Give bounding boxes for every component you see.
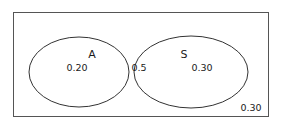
set-a-only-value: 0.20 xyxy=(66,62,87,73)
set-s-label: S xyxy=(181,48,188,61)
intersection-value: 0.5 xyxy=(131,62,146,73)
set-s-only-value: 0.30 xyxy=(191,62,212,73)
venn-diagram: A 0.20 0.5 S 0.30 0.30 xyxy=(0,0,281,128)
outside-value: 0.30 xyxy=(240,102,261,113)
set-a-label: A xyxy=(88,48,96,61)
